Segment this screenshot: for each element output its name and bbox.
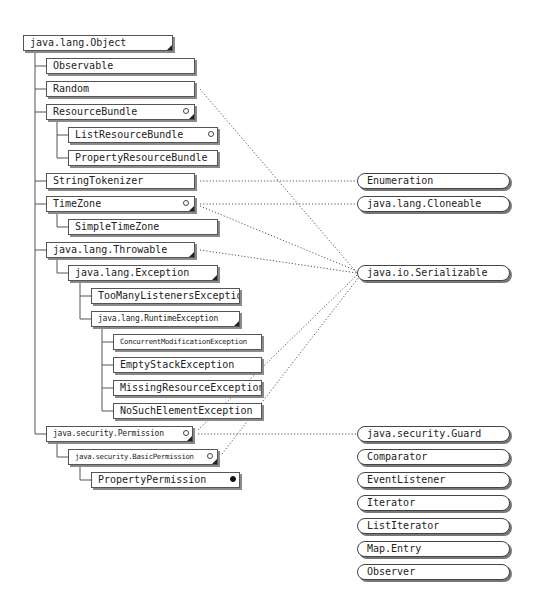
- interface-eventlistener[interactable]: EventListener: [357, 472, 510, 488]
- interface-label: java.security.Guard: [367, 428, 481, 439]
- corner-triangle-icon: [167, 45, 172, 50]
- class-label: PropertyResourceBundle: [75, 152, 207, 163]
- class-missingresourceexception[interactable]: MissingResourceException: [113, 380, 262, 396]
- corner-triangle-icon: [187, 436, 192, 441]
- interface-label: java.io.Serializable: [367, 267, 487, 278]
- corner-triangle-icon: [234, 321, 239, 326]
- class-label: java.lang.Object: [30, 37, 126, 48]
- class-label: Random: [53, 83, 89, 94]
- class-stringtokenizer[interactable]: StringTokenizer: [46, 173, 195, 189]
- class-timezone[interactable]: TimeZone: [46, 196, 195, 212]
- class-label: NoSuchElementException: [120, 405, 252, 416]
- interface-guard[interactable]: java.security.Guard: [357, 426, 510, 442]
- interface-label: Enumeration: [367, 175, 433, 186]
- class-random[interactable]: Random: [46, 81, 195, 97]
- interface-label: Iterator: [367, 497, 415, 508]
- interface-label: ListIterator: [367, 520, 439, 531]
- interface-comparator[interactable]: Comparator: [357, 449, 510, 465]
- class-label: ResourceBundle: [53, 106, 137, 117]
- class-label: java.security.BasicPermission: [75, 452, 194, 461]
- class-emptystackexception[interactable]: EmptyStackException: [113, 357, 262, 373]
- corner-triangle-icon: [212, 459, 217, 464]
- interface-observer[interactable]: Observer: [357, 564, 510, 580]
- class-throwable[interactable]: java.lang.Throwable: [46, 242, 195, 258]
- class-basicpermission[interactable]: java.security.BasicPermission: [68, 449, 218, 465]
- class-label: Observable: [53, 60, 113, 71]
- interface-label: Map.Entry: [367, 543, 421, 554]
- class-hierarchy-diagram: java.lang.Object Observable Random Resou…: [0, 0, 537, 614]
- corner-triangle-icon: [189, 206, 194, 211]
- class-exception[interactable]: java.lang.Exception: [68, 265, 218, 281]
- class-label: java.lang.Exception: [75, 267, 189, 278]
- class-label: EmptyStackException: [120, 359, 234, 370]
- interface-label: Observer: [367, 566, 415, 577]
- class-label: java.lang.RuntimeException: [98, 314, 218, 323]
- class-java-lang-object[interactable]: java.lang.Object: [23, 35, 173, 51]
- interface-label: Comparator: [367, 451, 427, 462]
- class-toomanylistenersexception[interactable]: TooManyListenersException: [91, 288, 240, 304]
- class-simpletimezone[interactable]: SimpleTimeZone: [68, 219, 218, 235]
- interface-listiterator[interactable]: ListIterator: [357, 518, 510, 534]
- class-runtimeexception[interactable]: java.lang.RuntimeException: [91, 311, 240, 327]
- class-permission[interactable]: java.security.Permission: [46, 426, 193, 442]
- corner-triangle-icon: [189, 252, 194, 257]
- class-label: StringTokenizer: [53, 175, 143, 186]
- interface-iterator[interactable]: Iterator: [357, 495, 510, 511]
- class-label: MissingResourceException: [120, 382, 262, 393]
- corner-triangle-icon: [212, 275, 217, 280]
- class-propertypermission[interactable]: PropertyPermission: [91, 472, 240, 488]
- interface-label: java.lang.Cloneable: [367, 198, 481, 209]
- interface-enumeration[interactable]: Enumeration: [357, 173, 510, 189]
- class-resourcebundle[interactable]: ResourceBundle: [46, 104, 195, 120]
- interface-serializable[interactable]: java.io.Serializable: [357, 265, 510, 281]
- interface-cloneable[interactable]: java.lang.Cloneable: [357, 196, 510, 212]
- class-label: ListResourceBundle: [75, 129, 183, 140]
- final-dot-icon: [230, 476, 236, 482]
- class-label: TimeZone: [53, 198, 101, 209]
- interface-mapentry[interactable]: Map.Entry: [357, 541, 510, 557]
- class-label: ConcurrentModificationException: [120, 337, 247, 346]
- class-label: SimpleTimeZone: [75, 221, 159, 232]
- class-propertyresourcebundle[interactable]: PropertyResourceBundle: [68, 150, 218, 166]
- class-listresourcebundle[interactable]: ListResourceBundle: [68, 127, 218, 143]
- interface-label: EventListener: [367, 474, 445, 485]
- class-concurrentmodificationexception[interactable]: ConcurrentModificationException: [113, 334, 262, 350]
- class-nosuchelementexception[interactable]: NoSuchElementException: [113, 403, 262, 419]
- class-label: TooManyListenersException: [98, 290, 240, 301]
- class-label: java.security.Permission: [53, 429, 164, 438]
- abstract-circle-icon: [208, 131, 214, 137]
- class-label: java.lang.Throwable: [53, 244, 167, 255]
- class-observable[interactable]: Observable: [46, 58, 195, 74]
- corner-triangle-icon: [189, 114, 194, 119]
- class-label: PropertyPermission: [98, 474, 206, 485]
